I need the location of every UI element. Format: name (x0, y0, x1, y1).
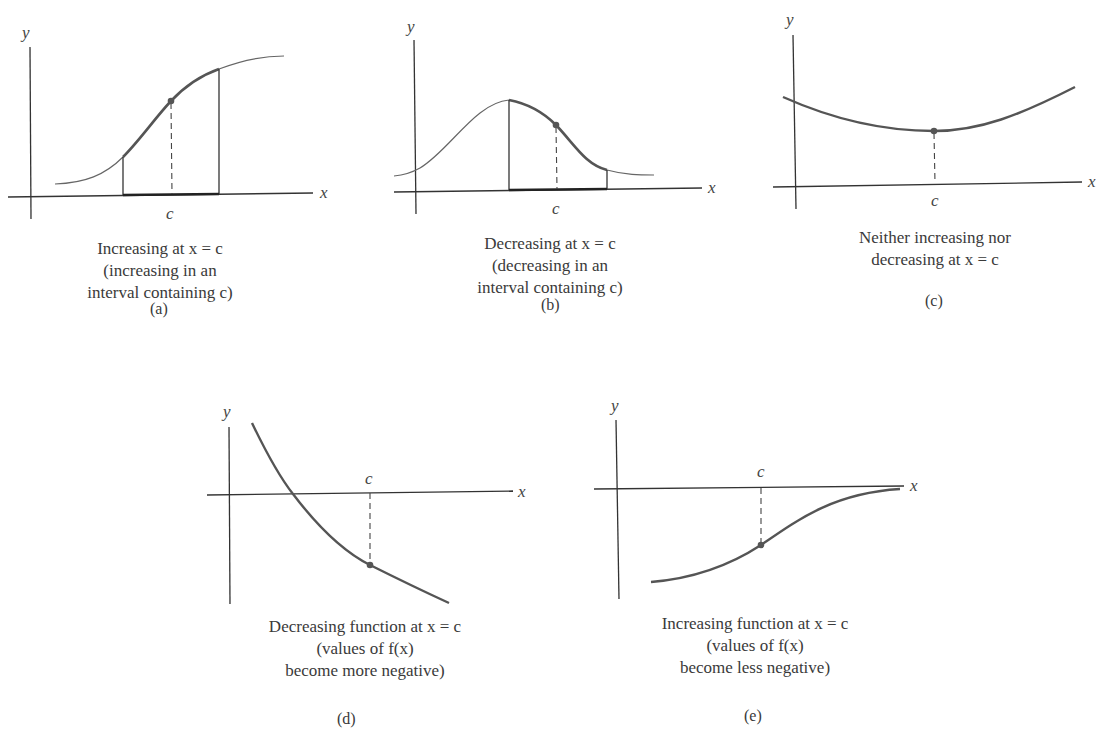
caption-line: decreasing at x = c (800, 249, 1070, 271)
panel-a-graph: y x c (8, 23, 328, 223)
figure-canvas: y x c y x c y x c y x c (0, 0, 1115, 751)
point-c (758, 542, 765, 549)
panel-d-caption: Decreasing function at x = c (values of … (220, 616, 510, 682)
curve-thin (55, 157, 123, 184)
c-label: c (166, 204, 174, 223)
caption-line: (values of f(x) (610, 635, 900, 657)
truncated-figure-caption (0, 742, 560, 751)
panel-d-tag: (d) (337, 710, 356, 728)
y-axis-label: y (784, 10, 794, 29)
x-axis (594, 486, 904, 489)
panel-b-caption: Decreasing at x = c (decreasing in an in… (410, 233, 690, 299)
panel-c-tag: (c) (925, 292, 943, 310)
c-label: c (552, 199, 560, 218)
x-axis-label: x (909, 476, 918, 495)
panel-e-graph: y x c (594, 396, 918, 599)
x-axis-label: x (1087, 172, 1096, 191)
panel-e-tag: (e) (744, 707, 762, 725)
y-axis-label: y (20, 23, 30, 42)
caption-line: Decreasing function at x = c (220, 616, 510, 638)
y-axis (414, 40, 416, 214)
panel-a-caption: Increasing at x = c (increasing in an in… (20, 238, 300, 304)
caption-line: become less negative) (610, 657, 900, 679)
interval-segment (509, 189, 607, 190)
c-label: c (931, 191, 939, 210)
panel-a-tag: (a) (150, 300, 168, 318)
panel-c-graph: y x c (773, 10, 1096, 210)
curve-highlighted (509, 100, 607, 170)
dashed-drop-line (171, 103, 172, 194)
y-axis (30, 47, 31, 219)
dashed-drop-line (556, 127, 557, 189)
point-c (367, 562, 374, 569)
x-axis-label: x (707, 178, 716, 197)
caption-line: (increasing in an (20, 260, 300, 282)
curve-highlighted (252, 423, 449, 603)
y-axis (616, 420, 619, 599)
interval-segment (123, 194, 219, 195)
c-label: c (757, 462, 765, 481)
y-axis-label: y (405, 17, 415, 36)
curve-highlighted (783, 87, 1075, 131)
curve-thin (394, 100, 509, 176)
c-label: c (365, 469, 373, 488)
panel-b-graph: y x c (394, 17, 716, 218)
x-axis-label: x (319, 183, 328, 202)
caption-line: Neither increasing nor (800, 227, 1070, 249)
x-axis (207, 491, 513, 495)
caption-line: (values of f(x) (220, 638, 510, 660)
panel-e-caption: Increasing function at x = c (values of … (610, 613, 900, 679)
point-c (931, 128, 938, 135)
curve-thin (219, 56, 284, 69)
x-axis (773, 182, 1082, 187)
panel-d-graph: y x c (207, 402, 526, 604)
curve-thin (607, 170, 654, 175)
dashed-drop-line (934, 133, 935, 183)
panel-c-caption: Neither increasing nor decreasing at x =… (800, 227, 1070, 271)
y-axis (793, 35, 796, 209)
point-c (168, 98, 175, 105)
caption-line: Increasing function at x = c (610, 613, 900, 635)
point-c (553, 122, 560, 129)
y-axis-label: y (609, 396, 619, 415)
curve-highlighted (651, 489, 900, 582)
caption-line: Increasing at x = c (20, 238, 300, 260)
caption-line: Decreasing at x = c (410, 233, 690, 255)
panel-b-tag: (b) (541, 296, 560, 314)
caption-line: become more negative) (220, 660, 510, 682)
x-axis-label: x (517, 482, 526, 501)
y-axis-label: y (221, 402, 231, 421)
caption-line: (decreasing in an (410, 255, 690, 277)
y-axis (229, 427, 230, 604)
